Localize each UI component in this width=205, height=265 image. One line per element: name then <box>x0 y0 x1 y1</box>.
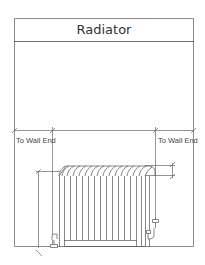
diagram-title: Radiator <box>14 18 194 41</box>
left-clearance-label: To Wall End <box>16 136 56 145</box>
left-valve <box>51 234 58 248</box>
right-valve <box>147 218 159 239</box>
radiator-sections <box>62 166 152 246</box>
frame <box>14 19 194 247</box>
height-dimension-line <box>36 169 60 256</box>
radiator-body <box>59 166 155 247</box>
radiator-diagram: Radiator To Wall End To Wall End <box>0 0 205 265</box>
right-clearance-label: To Wall End <box>158 136 198 145</box>
